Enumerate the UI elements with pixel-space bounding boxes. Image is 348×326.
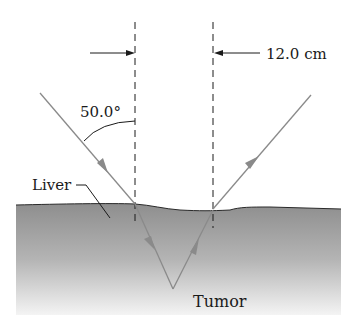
separation-label: 12.0 cm: [266, 45, 327, 63]
incident-arrow-icon: [97, 158, 108, 173]
liver-tissue: [16, 204, 341, 315]
liver-label: Liver: [32, 176, 72, 194]
arrowhead-left-icon: [214, 50, 223, 56]
angle-arc: [84, 121, 135, 141]
arrowhead-right-icon: [126, 50, 135, 56]
angle-label: 50.0°: [80, 103, 121, 121]
tumor-label: Tumor: [193, 292, 247, 311]
emerging-ray: [213, 95, 311, 209]
emerging-arrow-icon: [245, 156, 259, 169]
ultrasound-reflection-diagram: 12.0 cm 50.0° Liver Tumor: [0, 0, 348, 326]
